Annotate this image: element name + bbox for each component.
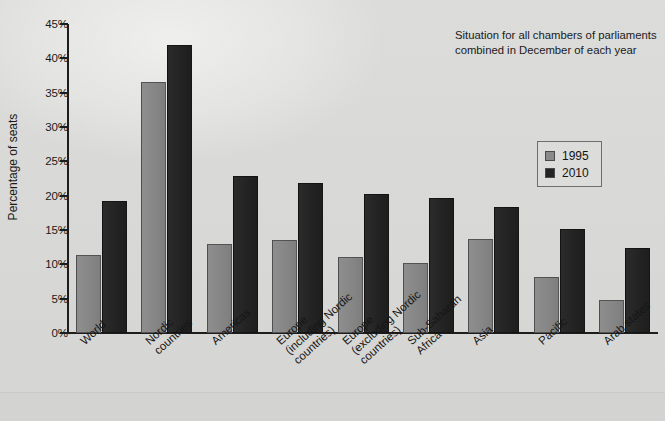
annotation-line-1: Situation for all chambers of parliament… <box>455 28 660 43</box>
bar-2010 <box>102 201 127 333</box>
y-tick-mark <box>60 57 68 59</box>
bar-group <box>599 24 651 333</box>
y-tick-mark <box>60 229 68 231</box>
bar-group <box>272 24 324 333</box>
bar-1995 <box>468 239 493 333</box>
bar-2010 <box>167 45 192 333</box>
bar-group <box>207 24 259 333</box>
y-tick-mark <box>60 126 68 128</box>
y-tick-40%: 40% <box>0 52 68 64</box>
legend-label-1995: 1995 <box>562 149 589 163</box>
y-axis-title: Percentage of seats <box>6 92 20 242</box>
y-tick-mark <box>60 160 68 162</box>
bar-1995 <box>141 82 166 333</box>
annotation-line-2: combined in December of each year <box>455 43 660 58</box>
legend-label-2010: 2010 <box>562 166 589 180</box>
y-tick-mark <box>60 195 68 197</box>
chart-legend: 1995 2010 <box>537 141 602 187</box>
legend-swatch-icon-2010 <box>545 168 555 178</box>
y-tick-mark <box>60 263 68 265</box>
legend-item-1995: 1995 <box>545 147 589 164</box>
bar-2010 <box>494 207 519 333</box>
y-tick-mark <box>60 332 68 334</box>
y-tick-0%: 0% <box>0 327 68 339</box>
y-tick-mark <box>60 23 68 25</box>
bar-group <box>468 24 520 333</box>
y-tick-5%: 5% <box>0 293 68 305</box>
bar-group <box>141 24 193 333</box>
legend-item-2010: 2010 <box>545 164 589 181</box>
y-tick-mark <box>60 298 68 300</box>
legend-swatch-icon-1995 <box>545 151 555 161</box>
bar-group <box>338 24 390 333</box>
y-tick-45%: 45% <box>0 18 68 30</box>
chart-annotation: Situation for all chambers of parliament… <box>455 28 660 58</box>
bar-group <box>76 24 128 333</box>
y-tick-mark <box>60 92 68 94</box>
bottom-band <box>0 392 665 421</box>
y-tick-10%: 10% <box>0 258 68 270</box>
